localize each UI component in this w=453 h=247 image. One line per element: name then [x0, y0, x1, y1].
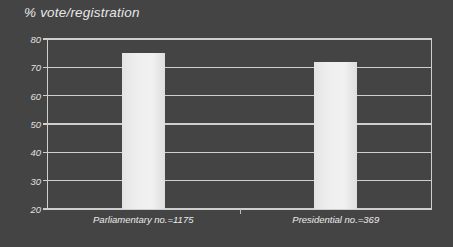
- y-axis-tick-mark: [43, 152, 47, 154]
- gridline: [47, 67, 432, 69]
- y-axis-tick-label: 80: [30, 34, 41, 45]
- y-axis-tick-label: 50: [30, 119, 41, 130]
- y-axis-tick-mark: [43, 38, 47, 40]
- gridline: [47, 95, 432, 97]
- x-axis-tick-mark: [240, 209, 241, 214]
- y-axis-tick-mark: [43, 95, 47, 97]
- y-axis-tick-mark: [43, 123, 47, 125]
- x-axis-category-label: Presidential no.=369: [292, 214, 379, 225]
- gridline: [47, 123, 432, 125]
- bar[interactable]: [314, 62, 357, 209]
- gridline: [47, 180, 432, 182]
- y-axis-tick-label: 40: [30, 147, 41, 158]
- y-axis-tick-mark: [43, 67, 47, 69]
- gridline: [47, 38, 432, 40]
- y-axis-tick-label: 30: [30, 175, 41, 186]
- y-axis-tick-mark: [43, 180, 47, 182]
- plot-area: 80706050403020: [47, 39, 432, 209]
- bar[interactable]: [122, 53, 165, 209]
- gridline: [47, 152, 432, 154]
- y-axis-tick-label: 70: [30, 62, 41, 73]
- y-axis-tick-label: 60: [30, 90, 41, 101]
- y-axis-tick-label: 20: [30, 204, 41, 215]
- y-axis-tick-mark: [43, 208, 47, 210]
- chart-title: % vote/registration: [24, 5, 140, 20]
- bar-chart: % vote/registration 80706050403020 Parli…: [0, 0, 453, 247]
- x-axis-category-label: Parliamentary no.=1175: [93, 214, 193, 225]
